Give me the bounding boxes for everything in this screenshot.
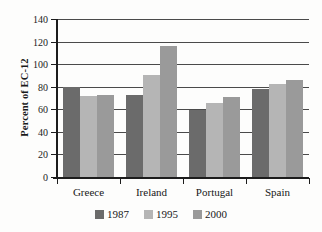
bar-chart: Percent of EC-12 140120100806040200 Gree… <box>0 0 322 232</box>
bar-group <box>126 19 177 177</box>
legend-label: 1995 <box>156 208 178 220</box>
legend-swatch-icon <box>95 210 104 219</box>
legend-item-1987[interactable]: 1987 <box>95 208 129 220</box>
x-axis-tick-mark <box>309 178 310 184</box>
x-axis-tick-mark <box>120 178 121 184</box>
x-axis-label-greece: Greece <box>57 186 120 198</box>
bar <box>143 75 160 177</box>
bar <box>286 80 303 177</box>
y-axis-tick-mark <box>51 154 57 155</box>
y-axis-tick-label: 140 <box>4 14 48 25</box>
y-axis-tick-mark <box>51 177 57 178</box>
chart-legend: 198719952000 <box>0 208 322 220</box>
legend-item-2000[interactable]: 2000 <box>193 208 227 220</box>
bar <box>189 110 206 177</box>
y-axis-tick-label: 60 <box>4 104 48 115</box>
bar <box>252 89 269 177</box>
y-axis-tick-mark <box>51 19 57 20</box>
bar <box>269 84 286 177</box>
x-axis-label-spain: Spain <box>246 186 309 198</box>
x-axis-label-portugal: Portugal <box>183 186 246 198</box>
y-axis-tick-label: 40 <box>4 126 48 137</box>
x-axis-tick-mark <box>183 178 184 184</box>
y-axis-tick-labels: 140120100806040200 <box>0 19 48 177</box>
y-axis-tick-mark <box>51 87 57 88</box>
y-axis-tick-mark <box>51 64 57 65</box>
y-axis-tick-label: 80 <box>4 81 48 92</box>
y-axis-tick-label: 20 <box>4 149 48 160</box>
bar-group <box>189 19 240 177</box>
x-axis-tick-mark <box>246 178 247 184</box>
bar <box>206 103 223 177</box>
y-axis-tick-mark <box>51 132 57 133</box>
x-axis-label-ireland: Ireland <box>120 186 183 198</box>
bars-layer <box>57 19 309 177</box>
bar <box>63 87 80 177</box>
bar <box>80 96 97 177</box>
legend-label: 2000 <box>205 208 227 220</box>
y-axis-tick-label: 120 <box>4 36 48 47</box>
bar <box>160 46 177 177</box>
legend-item-1995[interactable]: 1995 <box>144 208 178 220</box>
axis-baseline <box>53 177 309 179</box>
y-axis-tick-mark <box>51 109 57 110</box>
bar-group <box>252 19 303 177</box>
y-axis-tick-label: 100 <box>4 59 48 70</box>
bar <box>223 97 240 177</box>
y-axis-tick-mark <box>51 42 57 43</box>
legend-swatch-icon <box>193 210 202 219</box>
y-axis-tick-label: 0 <box>4 172 48 183</box>
legend-label: 1987 <box>107 208 129 220</box>
x-axis-tick-mark <box>57 178 58 184</box>
legend-swatch-icon <box>144 210 153 219</box>
bar <box>97 95 114 177</box>
bar-group <box>63 19 114 177</box>
bar <box>126 95 143 177</box>
